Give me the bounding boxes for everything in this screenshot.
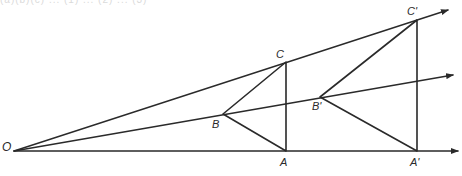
ray-oc: [14, 10, 448, 151]
ray-ob: [14, 75, 453, 151]
label-c: C: [276, 49, 284, 60]
triangle-abc: [223, 62, 286, 151]
label-a: A: [280, 157, 287, 168]
label-b-prime: B': [312, 101, 321, 112]
homothety-figure: [0, 0, 462, 176]
label-a-prime: A': [410, 157, 419, 168]
label-b: B: [212, 119, 219, 130]
label-o: O: [2, 141, 11, 153]
triangle-a-prime-b-prime-c-prime: [320, 20, 417, 151]
label-c-prime: C': [407, 6, 417, 17]
diagram-canvas: (a)(b)(c) ... (1) ... (2) ... (3) O A B …: [0, 0, 462, 176]
